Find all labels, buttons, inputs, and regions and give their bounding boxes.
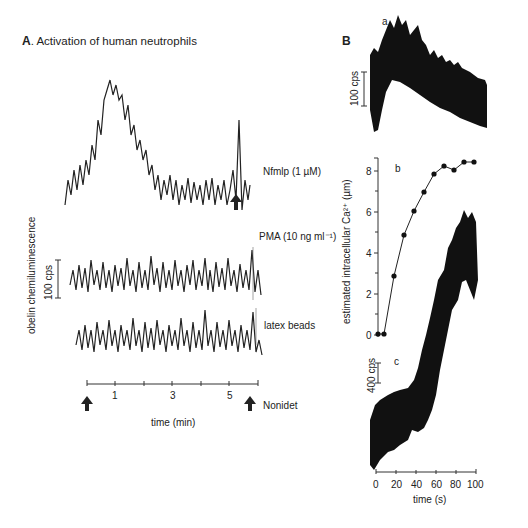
trace-label-nfmlp: Nfmlp (1 µM)	[263, 166, 321, 177]
sub-a-label: a	[382, 16, 388, 27]
nonidet-label: Nonidet	[263, 400, 297, 411]
trace-b-c	[370, 210, 478, 470]
trace-label-pma: PMA (10 ng ml⁻¹)	[259, 231, 336, 242]
panel-a-scale-bar	[55, 260, 61, 298]
panel-a-title-text: . Activation of human neutrophils	[31, 35, 197, 47]
panel-a-xtick-5: 5	[227, 390, 233, 401]
trace-nfmlp	[65, 80, 250, 210]
ytick-0: 0	[366, 330, 372, 341]
ytick-8: 8	[366, 166, 372, 177]
nfmlp-arrow	[230, 194, 242, 210]
panel-b-b-yaxis	[374, 158, 378, 337]
panel-b-xtick-100: 100	[467, 479, 484, 490]
sub-a-scale-label: 100 cps	[349, 71, 360, 106]
trace-pma	[70, 250, 261, 295]
panel-b-xtick-20: 20	[391, 479, 402, 490]
panel-b-xlabel: time (s)	[413, 494, 446, 505]
panel-a-scale-label: 100 cps	[43, 265, 54, 300]
ytick-4: 4	[366, 248, 372, 259]
ytick-6: 6	[366, 207, 372, 218]
start-arrow-icon	[81, 396, 93, 411]
panel-a-xlabel: time (min)	[151, 417, 195, 428]
panel-b-a-scale-bar	[361, 72, 367, 106]
panel-b-xtick-60: 60	[431, 479, 442, 490]
trace-label-latex-beads: latex beads	[264, 320, 315, 331]
panel-b-time-axis	[376, 469, 476, 474]
sub-b-label: b	[395, 163, 401, 174]
panel-a-time-axis	[87, 380, 258, 386]
panel-a-xtick-1: 1	[112, 390, 118, 401]
panel-b-xtick-40: 40	[411, 479, 422, 490]
panel-a-letter: A	[22, 34, 31, 48]
trace-latex-beads	[76, 310, 262, 355]
nonidet-arrow-icon	[244, 396, 256, 411]
sub-c-scale-label: 400 cps	[366, 358, 377, 393]
panel-b-xtick-0: 0	[373, 479, 379, 490]
sub-c-label: c	[394, 356, 399, 367]
panel-a-title: A. Activation of human neutrophils	[22, 34, 197, 48]
sub-b-ylabel: estimated intracellular Ca²⁺ (µm)	[341, 179, 352, 324]
panel-b-letter: B	[342, 34, 351, 48]
panel-a-xtick-3: 3	[170, 390, 176, 401]
panel-a-ylabel: obelin chemiluminescence	[26, 217, 37, 334]
panel-b-xtick-80: 80	[450, 479, 461, 490]
figure-canvas	[0, 0, 528, 528]
ytick-2: 2	[366, 289, 372, 300]
trace-b-a	[370, 15, 487, 132]
